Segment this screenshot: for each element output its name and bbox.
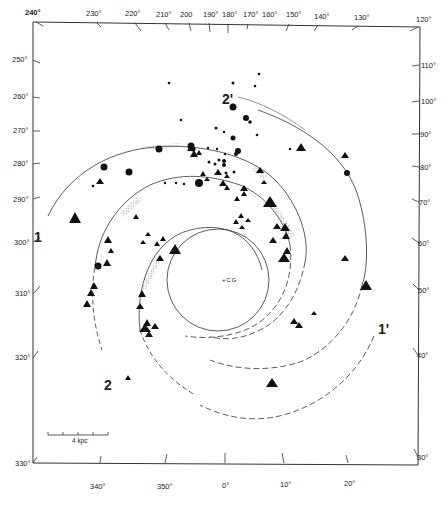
right-tick-label: 50° — [418, 286, 429, 295]
arm-2-label: 2 — [104, 377, 112, 393]
left-tick-label: 330° — [15, 459, 31, 468]
left-ticks — [33, 60, 40, 463]
bottom-tick-label: 0° — [222, 481, 229, 490]
left-tick-label: 310° — [15, 289, 31, 298]
galactic-center-label: +CG — [222, 277, 238, 283]
right-tick-label: 80° — [420, 163, 431, 172]
bottom-ticks — [100, 453, 348, 463]
data-circles — [92, 73, 350, 270]
arm-1-prime-label: 1' — [378, 321, 389, 337]
left-tick-label: 300° — [14, 238, 30, 247]
top-tick-label: 220° — [125, 9, 141, 18]
left-tick-label: 260° — [13, 92, 29, 101]
top-tick-label: 130° — [354, 13, 370, 22]
bottom-tick-label: 350° — [157, 482, 173, 491]
bottom-tick-label: 10° — [280, 480, 291, 489]
arm-1-label: 1 — [34, 229, 42, 245]
top-tick-label: 230° — [86, 9, 102, 18]
top-tick-label: 160° — [262, 10, 278, 19]
left-tick-label: 290° — [13, 195, 29, 204]
bottom-tick-label: 20° — [344, 479, 355, 488]
top-tick-label: 120° — [416, 15, 432, 24]
arm-2-prime-label: 2' — [222, 91, 233, 107]
top-tick-label: 190° — [203, 10, 219, 19]
top-ticks — [36, 22, 418, 33]
bottom-axis: 340° 350° 0° 10° 20° — [90, 479, 355, 491]
right-tick-label: 70° — [419, 198, 430, 207]
left-tick-label: 320° — [15, 353, 31, 362]
right-tick-label: 40° — [417, 351, 428, 360]
spiral-arm-1 — [48, 97, 374, 419]
solar-circle — [167, 229, 269, 331]
right-tick-label: 60° — [418, 239, 429, 248]
right-tick-label: 100° — [421, 97, 437, 106]
top-axis: 240° 230° 220° 210° 200 190° 180° 170° 1… — [25, 8, 432, 24]
left-tick-label: 250° — [12, 55, 28, 64]
right-tick-label: 90° — [420, 130, 431, 139]
left-tick-label: 270° — [13, 126, 29, 135]
top-tick-label: 180° — [222, 10, 238, 19]
right-tick-label: 30° — [417, 453, 428, 462]
top-tick-label: 240° — [25, 8, 41, 17]
right-tick-label: 110° — [421, 61, 436, 70]
plot-frame — [33, 22, 420, 465]
top-tick-label: 210° — [156, 10, 172, 19]
top-tick-label: 150° — [286, 10, 302, 19]
left-tick-label: 280° — [13, 159, 29, 168]
top-tick-label: 140° — [314, 12, 330, 21]
bottom-tick-label: 340° — [90, 482, 106, 491]
hatched-regions — [120, 143, 295, 290]
top-tick-label: 170° — [243, 10, 259, 19]
left-axis: 250° 260° 270° 280° 290° 300° 310° 320° … — [12, 55, 31, 468]
scale-bar — [48, 432, 108, 435]
scale-bar-label: 4 kpc — [72, 437, 88, 445]
galactic-spiral-diagram: 240° 230° 220° 210° 200 190° 180° 170° 1… — [0, 0, 446, 505]
top-tick-label: 200 — [180, 10, 193, 19]
